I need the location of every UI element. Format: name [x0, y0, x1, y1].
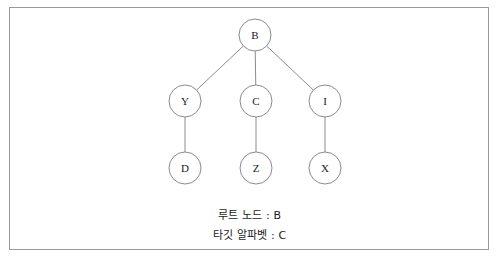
tree-node-y[interactable]: Y [169, 85, 201, 117]
tree-edge [255, 51, 256, 85]
node-label: Z [253, 162, 260, 174]
node-label: X [321, 162, 329, 174]
tree-node-z[interactable]: Z [240, 152, 272, 184]
tree-node-x[interactable]: X [309, 152, 341, 184]
node-label: I [323, 95, 327, 107]
tree-node-b[interactable]: B [239, 19, 271, 51]
node-label: Y [181, 95, 189, 107]
tree-node-i[interactable]: I [309, 85, 341, 117]
tree-node-c[interactable]: C [240, 85, 272, 117]
node-label: B [251, 29, 258, 41]
diagram-canvas: BYCIDZX 루트 노드 : B 타깃 알파벳 : C [0, 0, 499, 259]
tree-node-d[interactable]: D [169, 152, 201, 184]
caption-target-alphabet: 타깃 알파벳 : C [0, 226, 499, 242]
tree-nodes: BYCIDZX [169, 19, 341, 184]
caption-root-node: 루트 노드 : B [0, 206, 499, 222]
tree-edge [197, 46, 244, 90]
node-label: D [181, 162, 189, 174]
tree-edge [267, 46, 314, 90]
node-label: C [252, 95, 259, 107]
